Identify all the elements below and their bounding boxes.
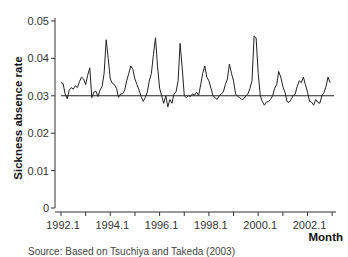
y-tick-label: 0 (43, 202, 49, 214)
y-tick-label: 0.01 (28, 165, 49, 177)
source-caption: Source: Based on Tsuchiya and Takeda (20… (28, 246, 235, 257)
x-tick-label: 1996.1 (145, 219, 179, 231)
x-tick-label: 2000.1 (243, 219, 277, 231)
y-tick-label: 0.02 (28, 127, 49, 139)
y-axis: 00.010.020.030.040.05 (28, 15, 55, 214)
x-tick-label: 1998.1 (194, 219, 228, 231)
x-tick-label: 1994.1 (95, 219, 129, 231)
y-tick-label: 0.04 (28, 52, 49, 64)
x-tick-label: 2002.1 (293, 219, 327, 231)
y-tick-label: 0.03 (28, 90, 49, 102)
y-tick-label: 0.05 (28, 15, 49, 27)
x-axis-title: Month (309, 231, 343, 243)
x-axis: 1992.11994.11996.11998.12000.12002.1 (46, 212, 336, 231)
x-tick-label: 1992.1 (46, 219, 80, 231)
y-axis-title: Sickness absence rate (12, 56, 24, 179)
